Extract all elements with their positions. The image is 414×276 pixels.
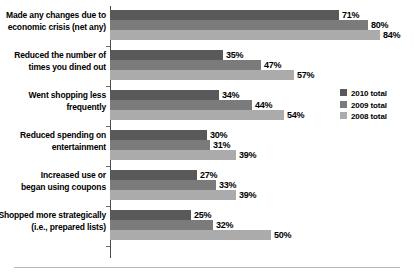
bar-value-label: 31% (213, 141, 230, 150)
plot-area: 71%80%84%35%47%57%34%44%54%30%31%39%27%3… (110, 6, 410, 258)
bar-value-label: 71% (342, 11, 359, 20)
bar-value-label: 84% (383, 31, 400, 40)
bar-value-label: 44% (255, 101, 272, 110)
bar-row[interactable]: 57% (110, 70, 294, 80)
category-label-line: Went shopping less (0, 90, 106, 102)
bar[interactable] (110, 170, 197, 180)
category-label-line: Reduced spending on (0, 130, 106, 142)
bar-row[interactable]: 30% (110, 130, 207, 140)
bar[interactable] (110, 150, 236, 160)
legend-label: 2010 total (351, 88, 387, 100)
legend-label: 2008 total (351, 111, 387, 123)
category-label: Reduced the number oftimes you dined out (0, 50, 106, 73)
bar-group: 71%80%84% (110, 6, 410, 46)
legend-swatch (340, 112, 347, 119)
axis-tick (106, 246, 110, 247)
category-label: Shopped more strategically(i.e., prepare… (0, 210, 106, 233)
bar[interactable] (110, 190, 236, 200)
bar[interactable] (110, 10, 339, 20)
bar-value-label: 30% (210, 131, 227, 140)
category-label-line: entertainment (0, 142, 106, 154)
bar-row[interactable]: 44% (110, 100, 252, 110)
axis-tick (106, 46, 110, 47)
chart-legend: 2010 total2009 total2008 total (340, 87, 410, 122)
bar[interactable] (110, 30, 380, 40)
bar-value-label: 35% (226, 51, 243, 60)
bar[interactable] (110, 60, 261, 70)
bar-value-label: 25% (194, 211, 211, 220)
bar-row[interactable]: 80% (110, 20, 368, 30)
bar-row[interactable]: 25% (110, 210, 191, 220)
axis-tick (106, 126, 110, 127)
category-label-line: economic crisis (net any) (0, 22, 106, 34)
bar-row[interactable]: 33% (110, 180, 216, 190)
bar[interactable] (110, 220, 213, 230)
bar-value-label: 47% (264, 61, 281, 70)
bar-value-label: 50% (274, 231, 291, 240)
category-label-line: frequently (0, 102, 106, 114)
bar-value-label: 32% (216, 221, 233, 230)
legend-item[interactable]: 2008 total (340, 110, 410, 122)
bar-value-label: 80% (371, 21, 388, 30)
bar-row[interactable]: 47% (110, 60, 261, 70)
legend-item[interactable]: 2009 total (340, 99, 410, 111)
category-label: Reduced spending onentertainment (0, 130, 106, 153)
bar[interactable] (110, 100, 252, 110)
bar[interactable] (110, 180, 216, 190)
bar-row[interactable]: 34% (110, 90, 219, 100)
bar-row[interactable]: 84% (110, 30, 380, 40)
bar-row[interactable]: 32% (110, 220, 213, 230)
axis-tick (106, 86, 110, 87)
bar-row[interactable]: 39% (110, 150, 236, 160)
bar-row[interactable]: 31% (110, 140, 210, 150)
axis-tick (106, 166, 110, 167)
bar[interactable] (110, 90, 219, 100)
bar-row[interactable]: 35% (110, 50, 223, 60)
category-label-line: Made any changes due to (0, 10, 106, 22)
axis-tick (106, 206, 110, 207)
bar-value-label: 54% (287, 111, 304, 120)
bar-value-label: 57% (297, 71, 314, 80)
bar-group: 30%31%39% (110, 126, 410, 166)
bar[interactable] (110, 130, 207, 140)
bar-value-label: 39% (239, 191, 256, 200)
bar-group: 35%47%57% (110, 46, 410, 86)
category-label-line: times you dined out (0, 62, 106, 74)
grouped-bar-chart: 71%80%84%35%47%57%34%44%54%30%31%39%27%3… (0, 0, 414, 276)
bar[interactable] (110, 210, 191, 220)
bar-row[interactable]: 27% (110, 170, 197, 180)
bar-value-label: 33% (219, 181, 236, 190)
category-label: Made any changes due toeconomic crisis (… (0, 10, 106, 33)
bar[interactable] (110, 70, 294, 80)
legend-swatch (340, 89, 347, 96)
category-label: Increased use orbegan using coupons (0, 170, 106, 193)
category-label-line: Shopped more strategically (0, 210, 106, 222)
bar-row[interactable]: 71% (110, 10, 339, 20)
footer-divider (14, 267, 400, 268)
bar[interactable] (110, 20, 368, 30)
legend-item[interactable]: 2010 total (340, 87, 410, 99)
bar-value-label: 34% (222, 91, 239, 100)
bar[interactable] (110, 140, 210, 150)
category-label-line: Reduced the number of (0, 50, 106, 62)
category-label: Went shopping lessfrequently (0, 90, 106, 113)
legend-swatch (340, 101, 347, 108)
bar-row[interactable]: 50% (110, 230, 271, 240)
bar[interactable] (110, 50, 223, 60)
bar-row[interactable]: 54% (110, 110, 284, 120)
bar-group: 25%32%50% (110, 206, 410, 246)
bar-value-label: 27% (200, 171, 217, 180)
bar-value-label: 39% (239, 151, 256, 160)
category-label-line: (i.e., prepared lists) (0, 222, 106, 234)
bar-group: 27%33%39% (110, 166, 410, 206)
category-label-line: Increased use or (0, 170, 106, 182)
category-label-line: began using coupons (0, 182, 106, 194)
bar-row[interactable]: 39% (110, 190, 236, 200)
bar[interactable] (110, 110, 284, 120)
bar[interactable] (110, 230, 271, 240)
